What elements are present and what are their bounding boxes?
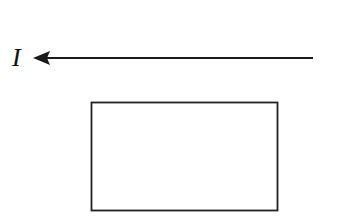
current-arrow (33, 51, 313, 65)
diagram-canvas (0, 0, 340, 217)
rectangle-loop (92, 103, 278, 211)
